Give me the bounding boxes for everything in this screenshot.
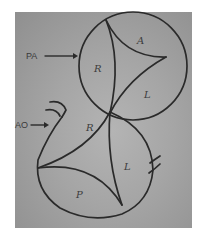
pa-pointer: PA xyxy=(26,51,78,61)
ao-arrow-head-icon xyxy=(44,122,49,128)
pa-arrow-head-icon xyxy=(73,53,78,59)
pa-commissure-r-a xyxy=(106,20,166,57)
ao-coronary-right-lower xyxy=(149,164,160,173)
pa-cusp-r-label: R xyxy=(93,63,102,74)
ao-cusp-r-label: R xyxy=(85,122,94,133)
pa-label: PA xyxy=(26,51,37,61)
pa-commissure-a-l xyxy=(110,57,166,113)
ao-pointer: AO xyxy=(15,120,49,130)
pa-cusp-a-label: A xyxy=(136,35,144,46)
ao-commissure-r-p xyxy=(38,112,110,168)
pa-cusp-l-label: L xyxy=(143,89,151,100)
valve-diagram: R A L PA R L P AO xyxy=(0,0,207,238)
ao-cusp-p-label: P xyxy=(75,189,83,200)
ao-coronary-upper-left-inner xyxy=(46,110,60,116)
pulmonary-valve: R A L xyxy=(79,12,187,120)
ao-cusp-l-label: L xyxy=(123,161,131,172)
ao-valve-outline xyxy=(37,112,153,218)
ao-label: AO xyxy=(15,120,28,130)
